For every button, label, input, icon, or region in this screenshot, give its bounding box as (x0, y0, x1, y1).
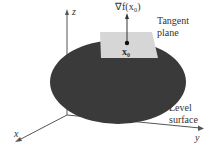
z-axis-label: z (72, 7, 76, 17)
surface-label-2: surface (169, 115, 198, 125)
x-axis-label: x (14, 129, 18, 139)
surface-label-1: Level (169, 103, 192, 113)
point-x0 (125, 41, 129, 45)
tangent-plane-label-1: Tangent (157, 16, 189, 26)
gradient-label: ∇f(x₀) (115, 2, 140, 12)
y-axis-label: y (195, 133, 199, 143)
x-axis (15, 115, 67, 142)
point-label: x₀ (122, 47, 130, 57)
tangent-plane-label-2: plane (157, 28, 179, 38)
